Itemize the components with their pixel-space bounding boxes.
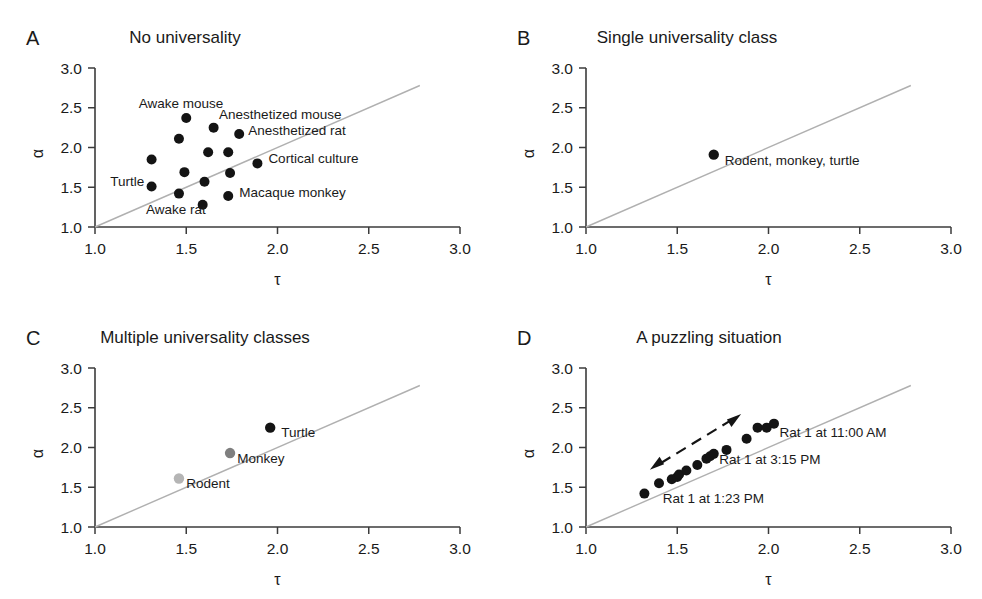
x-tick-label: 3.0: [940, 540, 962, 557]
y-tick-label: 2.0: [551, 439, 573, 456]
point-label: Turtle: [110, 174, 144, 189]
y-tick-label: 1.0: [60, 519, 82, 536]
data-point: [225, 168, 235, 178]
point-label: Awake rat: [146, 202, 206, 217]
data-point: [639, 489, 649, 499]
x-tick-label: 2.5: [358, 540, 380, 557]
x-tick-label: 1.0: [84, 240, 106, 257]
panel-b-plot: B Single universality class 1.01.01.51.5…: [491, 0, 982, 299]
data-point: [223, 147, 233, 157]
x-axis-title: τ: [765, 571, 772, 588]
data-point: [252, 158, 262, 168]
point-label: Cortical culture: [268, 151, 358, 166]
y-axis-title: α: [520, 149, 537, 158]
data-point: [681, 466, 691, 476]
panel-b-axes: 1.01.01.51.52.02.02.52.53.03.0τα: [520, 60, 962, 289]
data-point: [174, 134, 184, 144]
panel-c-letter: C: [26, 327, 40, 349]
point-label: Anesthetized rat: [248, 123, 346, 138]
data-point: [223, 191, 233, 201]
y-tick-label: 1.0: [60, 219, 82, 236]
y-tick-label: 3.0: [551, 360, 573, 377]
y-tick-label: 2.0: [60, 439, 82, 456]
y-tick-label: 3.0: [60, 60, 82, 77]
x-tick-label: 3.0: [449, 240, 471, 257]
data-point: [179, 167, 189, 177]
panel-c: C Multiple universality classes 1.01.01.…: [0, 300, 491, 599]
data-point: [147, 181, 157, 191]
y-tick-label: 2.5: [60, 399, 82, 416]
y-tick-label: 1.5: [60, 179, 82, 196]
panel-c-plot: C Multiple universality classes 1.01.01.…: [0, 300, 491, 599]
data-point: [203, 147, 213, 157]
point-label: Rat 1 at 3:15 PM: [719, 452, 820, 467]
panel-b: B Single universality class 1.01.01.51.5…: [491, 0, 982, 299]
panel-d-plot: D A puzzling situation 1.01.01.51.52.02.…: [491, 300, 982, 599]
point-label: Rat 1 at 11:00 AM: [779, 425, 886, 440]
panel-a-plot: A No universality 1.01.01.51.52.02.02.52…: [0, 0, 491, 299]
x-tick-label: 1.5: [175, 540, 197, 557]
x-axis-title: τ: [274, 571, 281, 588]
panel-c-axes: 1.01.01.51.52.02.02.52.53.03.0τα: [29, 360, 471, 589]
y-tick-label: 1.5: [551, 179, 573, 196]
data-point: [147, 154, 157, 164]
point-label: Rat 1 at 1:23 PM: [663, 491, 764, 506]
point-label: Rodent: [186, 476, 230, 491]
data-point: [654, 478, 664, 488]
data-point: [200, 177, 210, 187]
data-point: [234, 129, 244, 139]
data-point: [692, 460, 702, 470]
data-point: [265, 422, 275, 432]
y-axis-title: α: [520, 449, 537, 458]
panel-a-annotations: Awake mouseAnesthetized mouseAnesthetize…: [110, 96, 358, 218]
x-tick-label: 1.5: [666, 540, 688, 557]
panel-a-axes: 1.01.01.51.52.02.02.52.53.03.0τα: [29, 60, 471, 289]
panel-a-letter: A: [26, 27, 40, 49]
point-label: Awake mouse: [139, 96, 224, 111]
y-tick-label: 2.5: [60, 99, 82, 116]
y-tick-label: 2.0: [551, 139, 573, 156]
data-point: [225, 448, 235, 458]
panel-d-letter: D: [517, 327, 531, 349]
panel-c-annotations: TurtleMonkeyRodent: [186, 425, 315, 491]
data-point: [709, 449, 719, 459]
panel-b-annotations: Rodent, monkey, turtle: [725, 153, 860, 168]
figure-root: A No universality 1.01.01.51.52.02.02.52…: [0, 0, 982, 599]
data-point: [769, 419, 779, 429]
x-tick-label: 3.0: [940, 240, 962, 257]
panel-a: A No universality 1.01.01.51.52.02.02.52…: [0, 0, 491, 299]
arrow-head-icon: [727, 414, 741, 427]
y-tick-label: 1.5: [60, 479, 82, 496]
x-tick-label: 2.5: [849, 540, 871, 557]
y-tick-label: 1.0: [551, 219, 573, 236]
x-tick-label: 1.0: [84, 540, 106, 557]
panel-d: D A puzzling situation 1.01.01.51.52.02.…: [491, 300, 982, 599]
point-label: Monkey: [237, 451, 285, 466]
x-tick-label: 3.0: [449, 540, 471, 557]
x-tick-label: 2.0: [267, 240, 289, 257]
panel-a-title: No universality: [129, 28, 241, 47]
point-label: Anesthetized mouse: [219, 107, 341, 122]
point-label: Rodent, monkey, turtle: [725, 153, 860, 168]
x-tick-label: 1.0: [575, 240, 597, 257]
panel-b-title: Single universality class: [597, 28, 777, 47]
data-point: [209, 123, 219, 133]
x-tick-label: 2.0: [758, 540, 780, 557]
point-label: Turtle: [281, 425, 315, 440]
panel-b-letter: B: [517, 27, 530, 49]
data-point: [709, 149, 719, 159]
y-tick-label: 2.5: [551, 99, 573, 116]
x-tick-label: 1.0: [575, 540, 597, 557]
x-axis-title: τ: [765, 271, 772, 288]
x-tick-label: 2.5: [849, 240, 871, 257]
y-tick-label: 2.5: [551, 399, 573, 416]
y-tick-label: 2.0: [60, 139, 82, 156]
x-tick-label: 2.0: [758, 240, 780, 257]
x-axis-title: τ: [274, 271, 281, 288]
panel-d-title: A puzzling situation: [636, 328, 782, 347]
panel-d-axes: 1.01.01.51.52.02.02.52.53.03.0τα: [520, 360, 962, 589]
x-tick-label: 1.5: [666, 240, 688, 257]
point-label: Macaque monkey: [239, 185, 346, 200]
y-tick-label: 1.0: [551, 519, 573, 536]
y-tick-label: 3.0: [551, 60, 573, 77]
